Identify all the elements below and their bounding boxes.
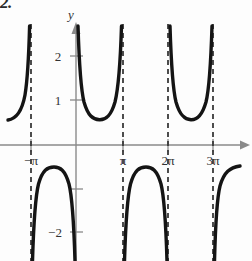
curve-branch-partial-right	[215, 166, 241, 261]
graph-canvas: y 2 1 −2 −π π 2π 3π	[0, 0, 252, 261]
ticks-group	[31, 56, 213, 232]
curve-branch-upper-0-to-pi	[78, 26, 122, 120]
curve-branch-partial-left	[8, 26, 30, 120]
x-tick-label-pi: π	[120, 153, 127, 168]
figure-container: 2.	[0, 0, 252, 261]
y-tick-label-minus-2: −2	[48, 225, 62, 240]
curve-branch-upper-2pi-to-3pi	[170, 26, 212, 120]
x-axis-arrow-icon	[240, 141, 250, 150]
x-tick-label-2pi: 2π	[161, 153, 175, 168]
x-tick-label-minus-pi: −π	[24, 153, 38, 168]
y-tick-label-1: 1	[55, 93, 62, 108]
x-tick-label-3pi: 3π	[206, 153, 220, 168]
y-tick-label-2: 2	[55, 49, 62, 64]
y-axis-label: y	[66, 7, 74, 22]
curve-branch-lower-pi-to-2pi	[125, 167, 168, 261]
curve-branch-lower-minus-pi-to-0	[33, 167, 76, 261]
curve-group	[8, 26, 240, 261]
